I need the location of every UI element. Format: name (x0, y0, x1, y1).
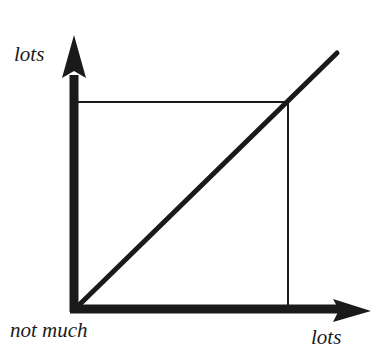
diagram-canvas (0, 0, 391, 354)
y-axis-arrowhead-icon (62, 35, 86, 78)
x-axis-label: lots (311, 325, 341, 350)
diagonal-line (76, 53, 337, 308)
y-axis-label: lots (14, 42, 44, 67)
origin-label: not much (10, 318, 88, 343)
